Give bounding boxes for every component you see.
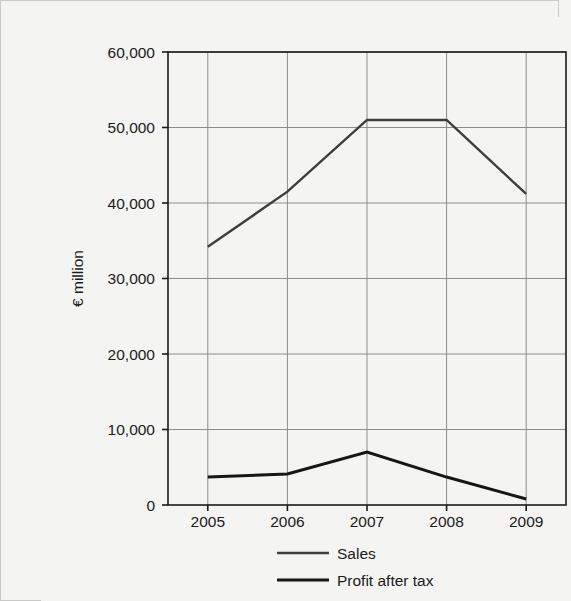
y-axis-tick-label: 60,000 <box>108 44 156 61</box>
line-chart-figure: 010,00020,00030,00040,00050,00060,000 20… <box>41 17 571 601</box>
x-axis-tick-label: 2006 <box>270 513 304 530</box>
chart-background <box>41 17 571 601</box>
y-axis-tick-label: 30,000 <box>108 270 156 287</box>
x-axis-tick-label: 2005 <box>191 513 225 530</box>
x-axis-tick-label: 2008 <box>429 513 463 530</box>
y-axis-tick-label: 0 <box>146 497 155 514</box>
x-axis-tick-label: 2007 <box>350 513 384 530</box>
y-axis-tick-label: 50,000 <box>108 119 156 136</box>
y-axis-title: € million <box>69 250 86 307</box>
y-axis-tick-label: 40,000 <box>108 195 156 212</box>
y-axis-tick-label: 10,000 <box>108 421 156 438</box>
y-axis-title-text: € million <box>69 250 86 307</box>
legend-label-sales: Sales <box>337 545 376 562</box>
legend-label-profit-after-tax: Profit after tax <box>337 572 434 589</box>
y-axis-tick-label: 20,000 <box>108 346 156 363</box>
x-axis-tick-label: 2009 <box>509 513 543 530</box>
chart-canvas: 010,00020,00030,00040,00050,00060,000 20… <box>41 17 571 601</box>
